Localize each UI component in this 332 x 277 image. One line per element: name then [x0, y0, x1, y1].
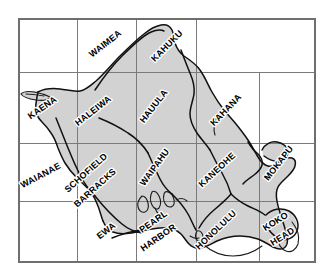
map-canvas: WAIMEA KAHUKU KAENA HALEIWA HAUULA KAHAN… [0, 0, 332, 277]
label-waianae: WAIANAE [19, 161, 62, 190]
label-waimea: WAIMEA [87, 28, 123, 60]
oahu-district-map: WAIMEA KAHUKU KAENA HALEIWA HAUULA KAHAN… [0, 0, 332, 277]
honolulu-reef-line [204, 245, 262, 256]
